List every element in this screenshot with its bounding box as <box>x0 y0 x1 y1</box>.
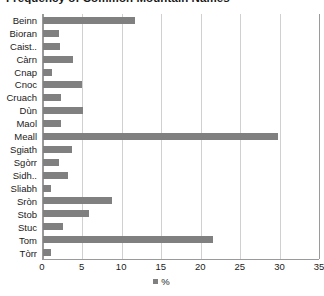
bar <box>43 56 73 63</box>
bar <box>43 159 59 166</box>
y-axis-label: Stob <box>0 208 40 221</box>
bar-row <box>43 117 319 130</box>
bar-row <box>43 246 319 259</box>
bar-row <box>43 143 319 156</box>
x-axis-tick-label: 10 <box>116 262 127 272</box>
x-axis-tick-label: 5 <box>79 262 84 272</box>
plot-area <box>42 14 319 260</box>
y-axis-label: Sròn <box>0 195 40 208</box>
bar-row <box>43 233 319 246</box>
legend-swatch-icon <box>153 279 158 284</box>
bar-row <box>43 220 319 233</box>
bar <box>43 223 63 230</box>
x-axis-tick-label: 20 <box>195 262 206 272</box>
bar-series <box>43 14 319 259</box>
bar <box>43 249 51 256</box>
y-axis-label: Cnap <box>0 66 40 79</box>
bar <box>43 197 112 204</box>
bar <box>43 107 83 114</box>
bar <box>43 210 89 217</box>
legend-label: % <box>161 277 169 287</box>
bar <box>43 81 82 88</box>
bar-row <box>43 182 319 195</box>
x-axis-tick-label: 35 <box>314 262 324 272</box>
x-axis-tick-label: 30 <box>274 262 285 272</box>
y-axis-label: Sgiath <box>0 144 40 157</box>
x-axis-tick-label: 15 <box>155 262 166 272</box>
bar-row <box>43 207 319 220</box>
gridline <box>319 14 320 259</box>
y-axis-label: Caist.. <box>0 40 40 53</box>
bar-row <box>43 78 319 91</box>
bar-row <box>43 194 319 207</box>
bar-row <box>43 104 319 117</box>
y-axis-label: Sidh.. <box>0 169 40 182</box>
x-axis-tick-label: 25 <box>235 262 246 272</box>
y-axis-label: Dùn <box>0 105 40 118</box>
legend: % <box>0 277 323 287</box>
bar <box>43 17 135 24</box>
y-axis-label: Beinn <box>0 14 40 27</box>
y-axis-label: Tom <box>0 234 40 247</box>
bar-row <box>43 156 319 169</box>
bar-row <box>43 66 319 79</box>
bar <box>43 69 52 76</box>
bar-row <box>43 53 319 66</box>
bar <box>43 94 61 101</box>
bar <box>43 185 51 192</box>
bar-row <box>43 27 319 40</box>
x-axis-tick-label: 0 <box>39 262 44 272</box>
y-axis-category-labels: BeinnBioranCaist..CàrnCnapCnocCruachDùnM… <box>0 14 40 260</box>
bar <box>43 120 61 127</box>
x-axis-tick-labels: 05101520253035 <box>42 262 319 276</box>
bar-row <box>43 40 319 53</box>
y-axis-label: Stuc <box>0 221 40 234</box>
y-axis-label: Tòrr <box>0 247 40 260</box>
bar <box>43 133 278 140</box>
bar-row <box>43 91 319 104</box>
y-axis-label: Bioran <box>0 27 40 40</box>
y-axis-label: Càrn <box>0 53 40 66</box>
bar <box>43 146 72 153</box>
bar <box>43 30 59 37</box>
bar <box>43 172 68 179</box>
bar <box>43 43 60 50</box>
bar <box>43 236 213 243</box>
bar-row <box>43 169 319 182</box>
y-axis-label: Sgòrr <box>0 156 40 169</box>
chart-title: Frequency of Common Mountain Names <box>6 0 306 8</box>
y-axis-label: Maol <box>0 118 40 131</box>
y-axis-label: Cruach <box>0 92 40 105</box>
bar-row <box>43 14 319 27</box>
bar-row <box>43 130 319 143</box>
y-axis-label: Meall <box>0 131 40 144</box>
y-axis-label: Sliabh <box>0 182 40 195</box>
y-axis-label: Cnoc <box>0 79 40 92</box>
